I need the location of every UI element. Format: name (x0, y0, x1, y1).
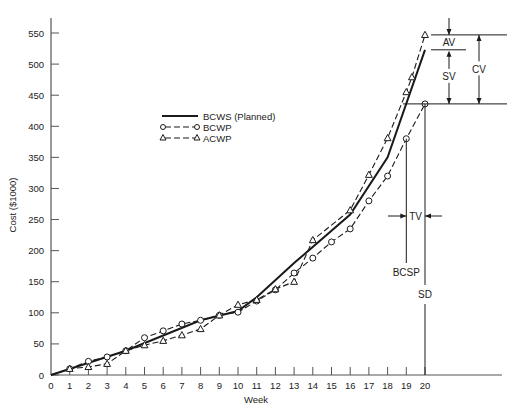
y-tick-label: 200 (28, 245, 44, 256)
series-layer (51, 31, 428, 375)
x-tick-label: 17 (364, 380, 375, 391)
y-tick-label: 350 (28, 152, 44, 163)
x-tick-label: 0 (48, 380, 53, 391)
bcwp-marker (347, 226, 353, 232)
y-tick-label: 550 (28, 28, 44, 39)
bcwp-marker (291, 270, 297, 276)
acwp-marker (366, 171, 373, 177)
acwp-marker (309, 236, 316, 242)
x-tick-label: 2 (86, 380, 91, 391)
y-tick-label: 450 (28, 90, 44, 101)
acwp-marker (104, 360, 111, 366)
tv-label: TV (409, 211, 422, 222)
y-tick-label: 0 (39, 370, 44, 381)
bcwp-marker (385, 173, 391, 179)
y-tick-label: 250 (28, 214, 44, 225)
circle-marker-icon (195, 125, 200, 130)
x-tick-label: 12 (270, 380, 281, 391)
bcsp-label: BCSP (393, 267, 421, 278)
x-tick-label: 1 (67, 380, 72, 391)
y-tick-label: 50 (33, 338, 44, 349)
acwp-marker (409, 74, 416, 80)
arrowhead (477, 35, 482, 41)
earned-value-chart: 0501001502002503003504004505005500123456… (0, 0, 513, 413)
bcwp-marker (179, 321, 185, 327)
x-tick-label: 3 (104, 380, 109, 391)
x-tick-label: 6 (161, 380, 166, 391)
arrowhead (400, 214, 406, 219)
bcwp-marker (329, 239, 335, 245)
y-tick-label: 400 (28, 121, 44, 132)
arrowhead (447, 29, 452, 35)
acwp-marker (384, 134, 391, 140)
arrowhead (447, 98, 452, 104)
arrowhead (425, 214, 431, 219)
acwp-marker (422, 31, 429, 37)
bcwp-marker (142, 335, 148, 341)
legend-acwp-label: ACWP (203, 133, 232, 144)
x-tick-label: 15 (326, 380, 337, 391)
x-tick-label: 4 (123, 380, 128, 391)
sv-label: SV (442, 71, 456, 82)
acwp-marker (403, 88, 410, 94)
av-label: AV (443, 37, 456, 48)
x-tick-label: 13 (289, 380, 300, 391)
x-tick-label: 10 (233, 380, 244, 391)
x-tick-label: 8 (198, 380, 203, 391)
y-tick-label: 150 (28, 276, 44, 287)
y-tick-label: 100 (28, 307, 44, 318)
y-tick-label: 500 (28, 59, 44, 70)
x-axis-title: Week (244, 394, 268, 405)
cv-label: CV (472, 64, 486, 75)
x-tick-label: 7 (179, 380, 184, 391)
arrowhead (447, 51, 452, 57)
bcwp-marker (235, 309, 241, 315)
acwp-line (51, 35, 425, 375)
x-tick-label: 20 (420, 380, 431, 391)
bcws-line (51, 50, 425, 375)
bcwp-marker (160, 328, 166, 334)
arrowhead (477, 98, 482, 104)
x-tick-label: 11 (252, 380, 262, 391)
bcwp-marker (366, 198, 372, 204)
bcwp-line (51, 104, 425, 375)
x-tick-label: 9 (217, 380, 222, 391)
x-tick-label: 14 (308, 380, 319, 391)
bcwp-marker (104, 354, 110, 360)
legend-bcwp-label: BCWP (203, 122, 232, 133)
bcwp-marker (198, 317, 204, 323)
bcwp-marker (310, 255, 316, 261)
x-tick-label: 19 (401, 380, 412, 391)
acwp-marker (197, 325, 204, 331)
y-tick-label: 300 (28, 183, 44, 194)
x-tick-label: 5 (142, 380, 147, 391)
circle-marker-icon (161, 125, 166, 130)
triangle-marker-icon (194, 135, 200, 141)
sd-label: SD (418, 289, 432, 300)
acwp-marker (291, 278, 298, 284)
legend-bcws-label: BCWS (Planned) (203, 111, 275, 122)
annotation-layer: AVSVCVBCSPSDTV (388, 18, 507, 375)
triangle-marker-icon (160, 135, 166, 141)
x-tick-label: 18 (382, 380, 393, 391)
axes: 0501001502002503003504004505005500123456… (7, 18, 502, 405)
x-tick-label: 16 (345, 380, 356, 391)
y-axis-title: Cost ($1000) (7, 178, 18, 233)
acwp-marker (235, 301, 242, 307)
legend: BCWS (Planned)BCWPACWP (160, 111, 275, 144)
